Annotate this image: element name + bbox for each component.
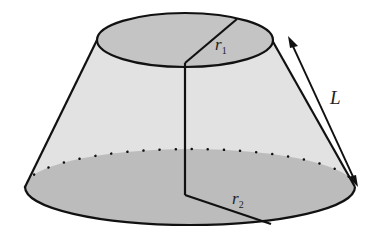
frustum-diagram: r1 r2 L — [0, 0, 370, 239]
arrowhead-top-icon — [288, 36, 298, 48]
top-face — [97, 13, 273, 67]
slant-height-label: L — [329, 87, 341, 108]
